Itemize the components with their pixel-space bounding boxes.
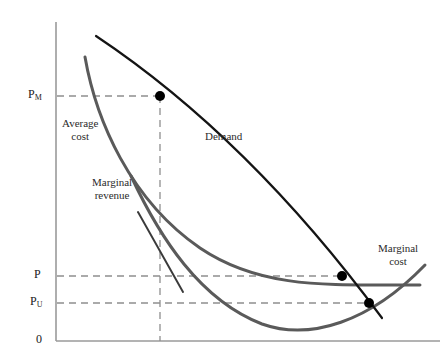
marginal-cost-label-line1: Marginal [378,242,418,255]
price-label-pm-sub: M [35,93,42,102]
price-label-pm: PM [28,88,42,102]
marginal-revenue-label-line2: revenue [92,189,132,202]
monopoly-point [155,91,165,101]
marginal-cost-point [364,298,374,308]
price-label-pm-text: P [28,87,35,101]
natural-monopoly-diagram: PM P PU 0 Average cost Demand Marginal r… [0,0,446,364]
average-cost-label-line1: Average [62,117,98,130]
price-label-p: P [34,268,41,282]
price-label-pu-sub: U [37,300,43,309]
average-cost-curve [85,57,420,285]
average-cost-label-line2: cost [62,130,98,143]
price-label-p-text: P [34,267,41,281]
price-label-pu: PU [30,295,42,309]
average-cost-point [337,271,347,281]
marginal-cost-label: Marginal cost [378,242,418,268]
marginal-revenue-label: Marginal revenue [92,176,132,202]
average-cost-label: Average cost [62,117,98,143]
marginal-cost-label-line2: cost [378,255,418,268]
marginal-revenue-label-line1: Marginal [92,176,132,189]
demand-label-line1: Demand [205,130,242,143]
diagram-canvas [0,0,446,364]
demand-label: Demand [205,130,242,143]
origin-label: 0 [36,333,42,346]
price-label-pu-text: P [30,294,37,308]
